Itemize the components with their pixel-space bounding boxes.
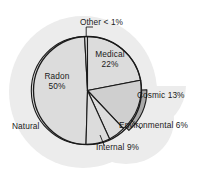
label-internal: Internal 9% bbox=[96, 143, 139, 153]
label-cosmic: Cosmic 13% bbox=[137, 91, 185, 101]
label-other: Other < 1% bbox=[0, 18, 203, 28]
pie-chart-figure: Other < 1% Medical 22% Radon 50% Cosmic … bbox=[0, 0, 203, 179]
label-medical-value: 22% bbox=[86, 60, 134, 70]
label-radon-value: 50% bbox=[33, 82, 81, 92]
label-environmental: Environmental 6% bbox=[119, 121, 188, 131]
label-natural: Natural bbox=[12, 122, 39, 132]
